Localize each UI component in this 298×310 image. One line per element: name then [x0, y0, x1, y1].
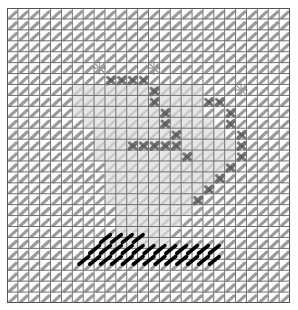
stitch-icon: [227, 230, 234, 236]
stitch-icon: [86, 241, 93, 247]
stitch-icon: [108, 296, 115, 302]
stitch-icon: [217, 66, 224, 72]
stitch-icon: [42, 45, 49, 51]
stitch-icon: [53, 176, 60, 182]
stitch-icon: [206, 274, 213, 280]
stitch-icon: [64, 296, 71, 302]
stitch-icon: [86, 143, 93, 149]
stitch-icon: [260, 121, 267, 127]
stitch-icon: [184, 219, 191, 225]
stitch-icon: [184, 66, 191, 72]
stitch-icon: [21, 77, 28, 83]
stitch-icon: [173, 296, 180, 302]
stitch-icon: [238, 45, 245, 51]
stitch-icon: [31, 230, 38, 236]
stitch-icon: [238, 241, 245, 247]
stitch-icon: [21, 88, 28, 94]
stitch-icon: [75, 12, 82, 18]
stitch-icon: [238, 230, 245, 236]
stitch-icon: [140, 285, 147, 291]
stitch-icon: [184, 23, 191, 29]
stitch-icon: [42, 34, 49, 40]
stitch-icon: [53, 154, 60, 160]
stitch-icon: [282, 154, 289, 160]
stitch-icon: [75, 296, 82, 302]
stitch-icon: [119, 66, 126, 72]
stitch-icon: [282, 77, 289, 83]
stitch-icon: [119, 56, 126, 62]
stitch-icon: [10, 23, 17, 29]
stitch-icon: [42, 296, 49, 302]
stitch-icon: [10, 66, 17, 72]
stitch-icon: [206, 34, 213, 40]
stitch-icon: [184, 12, 191, 18]
stitch-icon: [217, 296, 224, 302]
stitch-icon: [97, 77, 104, 83]
stitch-icon: [31, 23, 38, 29]
stitch-icon: [53, 99, 60, 105]
stitch-icon: [42, 56, 49, 62]
stitch-icon: [227, 208, 234, 214]
stitch-icon: [97, 208, 104, 214]
stitch-icon: [97, 296, 104, 302]
stitch-icon: [260, 165, 267, 171]
stitch-icon: [10, 45, 17, 51]
stitch-icon: [21, 219, 28, 225]
stitch-icon: [249, 285, 256, 291]
stitch-icon: [53, 66, 60, 72]
stitch-icon: [64, 23, 71, 29]
stitch-icon: [42, 66, 49, 72]
stitch-icon: [42, 252, 49, 258]
stitch-icon: [10, 296, 17, 302]
stitch-icon: [162, 34, 169, 40]
stitch-icon: [75, 23, 82, 29]
stitch-icon: [140, 66, 147, 72]
stitch-icon: [206, 66, 213, 72]
stitch-icon: [64, 110, 71, 116]
stitch-icon: [206, 208, 213, 214]
stitch-icon: [238, 198, 245, 204]
stitch-icon: [184, 34, 191, 40]
stitch-icon: [21, 23, 28, 29]
stitch-icon: [42, 121, 49, 127]
stitch-icon: [42, 99, 49, 105]
stitch-icon: [206, 296, 213, 302]
stitch-icon: [53, 252, 60, 258]
stitch-icon: [217, 208, 224, 214]
stitch-icon: [75, 274, 82, 280]
stitch-icon: [260, 110, 267, 116]
stitch-icon: [42, 12, 49, 18]
stitch-icon: [217, 110, 224, 116]
stitch-icon: [206, 219, 213, 225]
black-stitch-icon: [199, 257, 209, 265]
stitch-icon: [184, 296, 191, 302]
stitch-icon: [162, 12, 169, 18]
stitch-icon: [227, 56, 234, 62]
stitch-icon: [227, 176, 234, 182]
stitch-icon: [184, 77, 191, 83]
stitch-icon: [53, 34, 60, 40]
stitch-icon: [249, 45, 256, 51]
stitch-icon: [162, 23, 169, 29]
stitch-icon: [53, 208, 60, 214]
stitch-icon: [42, 285, 49, 291]
stitch-icon: [151, 23, 158, 29]
stitch-icon: [271, 154, 278, 160]
stitch-icon: [238, 208, 245, 214]
black-stitch-icon: [188, 257, 198, 265]
stitch-icon: [64, 241, 71, 247]
stitch-icon: [119, 274, 126, 280]
stitch-icon: [195, 12, 202, 18]
stitch-grid: [7, 8, 290, 303]
stitch-icon: [64, 143, 71, 149]
stitch-icon: [271, 241, 278, 247]
stitch-icon: [282, 34, 289, 40]
stitch-icon: [31, 110, 38, 116]
black-stitch-icon: [79, 257, 89, 265]
stitch-icon: [86, 56, 93, 62]
stitch-icon: [86, 208, 93, 214]
stitch-icon: [10, 219, 17, 225]
stitch-icon: [53, 143, 60, 149]
stitch-icon: [21, 198, 28, 204]
stitch-icon: [206, 77, 213, 83]
